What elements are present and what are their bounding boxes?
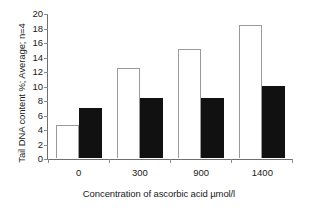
bar-group [49, 14, 110, 158]
x-tick-label: 300 [109, 166, 170, 180]
y-tick-label: 14 [22, 53, 43, 63]
x-tick-label: 0 [48, 166, 109, 180]
y-tick-mark [44, 101, 48, 102]
y-tick-mark [44, 14, 48, 15]
bar-group [110, 14, 171, 158]
y-tick-label: 16 [22, 38, 43, 48]
x-tick-label: 900 [171, 166, 232, 180]
x-tick-mark [231, 159, 232, 163]
y-tick-label: 20 [22, 9, 43, 19]
bar-open [239, 25, 262, 158]
bar-open [117, 68, 140, 158]
y-tick-label: 2 [22, 140, 43, 150]
y-tick-mark [44, 87, 48, 88]
bar-group [231, 14, 292, 158]
bar-groups [49, 14, 292, 158]
y-tick-mark [44, 116, 48, 117]
y-tick-label: 6 [22, 111, 43, 121]
y-axis-tick-labels: 20181614121086420 [22, 9, 43, 161]
y-tick-mark [44, 72, 48, 73]
y-tick-label: 10 [22, 82, 43, 92]
plot-area [47, 14, 292, 160]
bar-open [56, 125, 79, 158]
y-tick-mark [44, 29, 48, 30]
bar-filled [201, 98, 224, 158]
y-tick-label: 8 [22, 96, 43, 106]
x-tick-mark [109, 159, 110, 163]
bar-filled [79, 108, 102, 158]
x-axis-title: Concentration of ascorbic acid µmol/l [24, 188, 294, 200]
bar-group [171, 14, 232, 158]
bar-chart-figure: Tail DNA content %; Average; n=4 2018161… [0, 0, 315, 211]
bar-filled [140, 98, 163, 158]
y-tick-label: 18 [22, 24, 43, 34]
bar-filled [262, 86, 285, 159]
y-tick-mark [44, 43, 48, 44]
x-tick-mark [48, 159, 49, 163]
y-tick-mark [44, 130, 48, 131]
bar-open [178, 49, 201, 158]
x-tick-mark [170, 159, 171, 163]
x-tick-label: 1400 [232, 166, 293, 180]
y-tick-label: 0 [22, 154, 43, 164]
x-axis-tick-labels: 03009001400 [48, 166, 293, 180]
x-tick-mark [292, 159, 293, 163]
y-tick-mark [44, 58, 48, 59]
y-tick-mark [44, 145, 48, 146]
y-tick-label: 4 [22, 125, 43, 135]
y-tick-label: 12 [22, 67, 43, 77]
